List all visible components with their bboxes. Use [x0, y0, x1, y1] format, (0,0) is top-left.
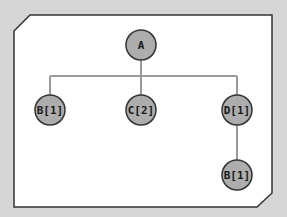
node-label: B[1] — [37, 104, 64, 117]
node-label: A — [138, 39, 145, 52]
tree-node-c2: C[2] — [126, 95, 156, 125]
tree-node-b1b: B[1] — [222, 160, 252, 190]
tree-node-d1: D[1] — [222, 95, 252, 125]
tree-node-a: A — [126, 30, 156, 60]
node-label: D[1] — [224, 104, 251, 117]
node-label: B[1] — [224, 169, 251, 182]
tree-node-b1: B[1] — [35, 95, 65, 125]
node-label: C[2] — [128, 104, 155, 117]
tree-diagram: AB[1]C[2]D[1]B[1] — [0, 0, 287, 217]
